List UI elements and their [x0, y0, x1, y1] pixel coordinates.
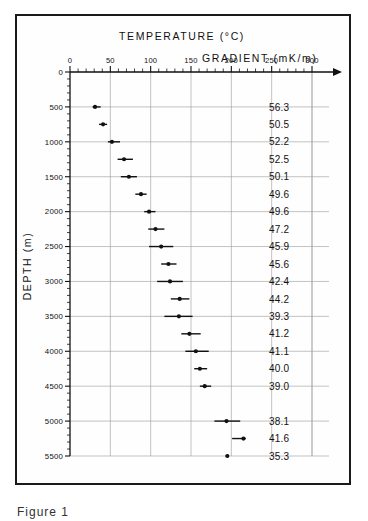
gradient-value-label: 41.6 — [269, 433, 290, 444]
data-point — [93, 105, 97, 109]
data-point — [177, 314, 181, 318]
data-point — [178, 297, 182, 301]
gradient-value-label: 47.2 — [269, 224, 290, 235]
data-point — [224, 419, 228, 423]
data-point — [159, 244, 163, 248]
gradient-value-label: 35.3 — [269, 451, 290, 462]
y-tick-label: 2000 — [45, 207, 64, 216]
data-point — [166, 262, 170, 266]
y-tick-label: 500 — [49, 103, 63, 112]
data-point — [203, 384, 207, 388]
data-point — [139, 192, 143, 196]
y-tick-label: 5500 — [45, 452, 64, 461]
data-point — [110, 140, 114, 144]
y-tick-label: 5000 — [45, 417, 64, 426]
data-point — [225, 454, 229, 458]
y-axis-title: DEPTH (m) — [21, 232, 33, 301]
x-tick-label: 0 — [68, 56, 72, 65]
gradient-value-label: 52.2 — [269, 136, 290, 147]
gradient-axis-title: GRADIENT (mK/m) — [202, 52, 317, 64]
data-point — [241, 436, 245, 440]
gradient-value-label: 50.1 — [269, 171, 290, 182]
gradient-value-label: 42.4 — [269, 276, 290, 287]
y-tick-label: 2500 — [45, 242, 64, 251]
y-tick-label: 3000 — [45, 277, 64, 286]
gradient-value-label: 38.1 — [269, 416, 290, 427]
data-point — [194, 349, 198, 353]
data-point — [187, 332, 191, 336]
y-tick-label: 4000 — [45, 347, 64, 356]
x-axis-arrow — [333, 68, 342, 76]
data-point — [127, 175, 131, 179]
gradient-value-label: 39.3 — [269, 311, 290, 322]
figure-caption: Figure 1 — [17, 505, 69, 519]
figure-frame: 0501001502002503000500100015002000250030… — [15, 14, 351, 485]
gradient-value-label: 41.2 — [269, 328, 290, 339]
gradient-value-label: 50.5 — [269, 119, 290, 130]
data-point — [168, 279, 172, 283]
data-point — [198, 367, 202, 371]
x-tick-label: 50 — [106, 56, 115, 65]
gradient-value-label: 45.9 — [269, 241, 290, 252]
data-point — [153, 227, 157, 231]
y-tick-label: 3500 — [45, 312, 64, 321]
temperature-depth-chart: 0501001502002503000500100015002000250030… — [17, 16, 349, 483]
data-point — [101, 122, 105, 126]
y-tick-label: 1500 — [45, 173, 64, 182]
gradient-value-label: 49.6 — [269, 189, 290, 200]
data-point — [122, 157, 126, 161]
y-tick-label: 0 — [58, 68, 63, 77]
gradient-value-label: 52.5 — [269, 154, 290, 165]
x-tick-label: 100 — [144, 56, 157, 65]
gradient-value-label: 56.3 — [269, 102, 290, 113]
gradient-value-label: 39.0 — [269, 381, 290, 392]
gradient-value-label: 41.1 — [269, 346, 290, 357]
y-tick-label: 4500 — [45, 382, 64, 391]
gradient-value-label: 49.6 — [269, 206, 290, 217]
gradient-value-label: 45.6 — [269, 259, 290, 270]
x-axis-title: TEMPERATURE (°C) — [119, 30, 245, 42]
gradient-value-label: 44.2 — [269, 294, 290, 305]
x-tick-label: 150 — [184, 56, 197, 65]
y-tick-label: 1000 — [45, 138, 64, 147]
gradient-value-label: 40.0 — [269, 363, 290, 374]
data-point — [147, 210, 151, 214]
